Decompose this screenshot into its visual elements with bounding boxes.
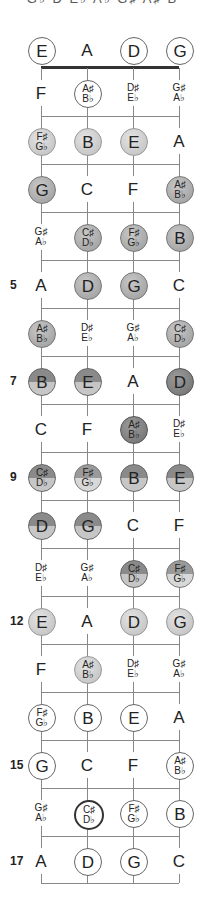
note-label: C — [81, 757, 93, 774]
note-fret-13: G♯A♭ — [166, 656, 192, 682]
nut — [41, 66, 179, 69]
note-fret-17: C — [166, 848, 192, 874]
open-note-e: E — [28, 37, 56, 65]
note-fret-3: C — [74, 176, 100, 202]
note-label: B — [82, 710, 93, 727]
note-label: C — [173, 853, 185, 870]
note-fret-6: A♯B♭ — [28, 320, 56, 348]
note-fret-16: F♯G♭ — [120, 800, 148, 828]
note-label: D — [128, 43, 140, 60]
note-fret-11: G♯A♭ — [74, 560, 100, 586]
note-label: F — [174, 517, 184, 534]
note-fret-4: B — [166, 224, 194, 252]
note-fret-14: A — [166, 704, 192, 730]
note-fret-6: C♯D♭ — [166, 320, 194, 348]
note-fret-1: A♯B♭ — [74, 80, 102, 108]
note-fret-10: F — [166, 512, 192, 538]
fret-line — [41, 740, 179, 741]
note-fret-7: E — [74, 368, 102, 396]
fret-number-label: 5 — [10, 278, 30, 292]
note-label: D — [128, 614, 140, 631]
note-fret-17: G — [120, 848, 148, 876]
note-fret-2: A — [166, 128, 192, 154]
fret-number-label: 7 — [10, 374, 30, 388]
note-label: B♭ — [128, 430, 140, 440]
note-fret-6: D♯E♭ — [74, 320, 100, 346]
note-label: A♭ — [127, 333, 139, 343]
note-label: G♭ — [128, 238, 141, 248]
note-fret-3: F — [120, 176, 146, 202]
note-fret-15: C — [74, 752, 100, 778]
note-label: D♭ — [36, 478, 48, 488]
note-label: G♭ — [36, 718, 49, 728]
note-fret-6: G♯A♭ — [120, 320, 146, 346]
fret-line — [41, 404, 179, 405]
note-label: B♭ — [174, 766, 186, 776]
note-label: B — [82, 134, 93, 151]
note-label: A — [35, 853, 46, 870]
note-fret-12: E — [28, 608, 56, 636]
note-label: E — [36, 614, 47, 631]
note-label: C — [81, 181, 93, 198]
fret-number-label: 9 — [10, 470, 30, 484]
note-fret-17: A — [28, 848, 54, 874]
note-fret-9: C♯D♭ — [28, 464, 56, 492]
note-fret-10: C — [120, 512, 146, 538]
note-label: E — [128, 134, 139, 151]
open-note-d: D — [120, 37, 148, 65]
note-fret-2: B — [74, 128, 102, 156]
note-label: B♭ — [82, 670, 94, 680]
note-fret-8: D♯E♭ — [166, 416, 192, 442]
note-label: B♭ — [82, 94, 94, 104]
note-label: A — [173, 709, 184, 726]
note-label: G — [35, 182, 48, 199]
fret-line — [41, 164, 179, 165]
note-fret-13: F — [28, 656, 54, 682]
note-fret-17: D — [74, 848, 102, 876]
note-label: B♭ — [174, 190, 186, 200]
note-fret-4: G♯A♭ — [28, 224, 54, 250]
note-fret-4: C♯D♭ — [74, 224, 102, 252]
note-fret-8: A♯B♭ — [120, 416, 148, 444]
note-label: G♭ — [128, 814, 141, 824]
note-fret-1: D♯E♭ — [120, 80, 146, 106]
fret-line — [41, 260, 179, 261]
note-label: A — [173, 133, 184, 150]
note-fret-15: F — [120, 752, 146, 778]
open-note-g: G — [166, 37, 194, 65]
fret-line — [41, 452, 179, 453]
note-fret-16: G♯A♭ — [28, 800, 54, 826]
note-fret-7: D — [166, 368, 194, 396]
fret-line — [41, 500, 179, 501]
note-label: G — [127, 278, 140, 295]
fret-number-label: 17 — [10, 854, 30, 868]
fret-line — [41, 596, 179, 597]
note-label: B — [36, 374, 47, 391]
note-label: E♭ — [81, 333, 93, 343]
note-fret-11: D♯E♭ — [28, 560, 54, 586]
note-fret-9: E — [166, 464, 194, 492]
note-label: B♭ — [36, 334, 48, 344]
note-fret-13: D♯E♭ — [120, 656, 146, 682]
note-fret-11: C♯D♭ — [120, 560, 148, 588]
note-label: E♭ — [127, 669, 139, 679]
fret-number-label: 12 — [10, 614, 30, 628]
note-label: E♭ — [127, 93, 139, 103]
note-label: B — [174, 230, 185, 247]
note-label: G♭ — [82, 478, 95, 488]
note-fret-3: G — [28, 176, 56, 204]
note-fret-2: F♯G♭ — [28, 128, 56, 156]
note-label: E — [36, 43, 47, 60]
fret-line — [41, 836, 179, 837]
fret-line — [41, 883, 179, 884]
fret-line — [41, 308, 179, 309]
note-label: C — [127, 517, 139, 534]
fret-line — [41, 356, 179, 357]
note-label: G — [173, 43, 186, 60]
note-fret-16: C♯D♭ — [74, 800, 104, 830]
note-label: F — [36, 85, 46, 102]
note-label: A — [35, 277, 46, 294]
note-label: D♭ — [82, 238, 94, 248]
note-label: A — [81, 42, 92, 59]
fret-line — [41, 212, 179, 213]
